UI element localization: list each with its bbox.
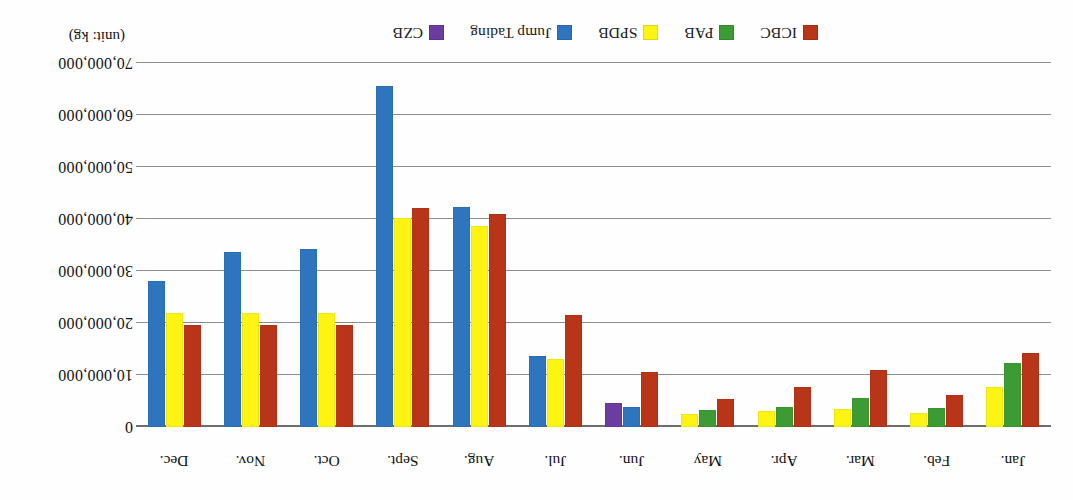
- bar-group: [670, 60, 746, 438]
- x-axis-tick-label: Jul.: [544, 452, 566, 470]
- bar-spdb[interactable]: [166, 313, 183, 427]
- y-axis-tick-label: 50,000,000: [8, 158, 133, 176]
- y-axis-tick-label: 60,000,000: [8, 106, 133, 124]
- x-axis-tick-label: Apr.: [771, 452, 798, 470]
- bar-group: [975, 60, 1051, 438]
- legend-item-jump-tading[interactable]: Jump Tading: [470, 24, 572, 42]
- legend-item-czb[interactable]: CZB: [393, 24, 444, 42]
- legend-swatch-icon: [803, 26, 818, 41]
- bar-spdb[interactable]: [834, 409, 851, 427]
- legend-swatch-icon: [429, 26, 444, 41]
- y-axis-tick-label: 70,000,000: [8, 54, 133, 72]
- legend-item-pab[interactable]: PAB: [684, 24, 734, 42]
- bar-jump-tading[interactable]: [529, 356, 546, 427]
- x-axis-tick-label: Dec.: [160, 452, 189, 470]
- bar-group: [822, 60, 898, 438]
- legend-label: SPDB: [598, 24, 637, 42]
- bar-group: [899, 60, 975, 438]
- x-axis-tick-label: Aug.: [464, 452, 495, 470]
- bar-chart: ICBCPABSPDBJump TadingCZB 010,000,00020,…: [0, 0, 1073, 500]
- bar-jump-tading[interactable]: [376, 86, 393, 427]
- bar-group: [212, 60, 288, 438]
- bar-spdb[interactable]: [681, 414, 698, 427]
- bar-group: [365, 60, 441, 438]
- legend-item-spdb[interactable]: SPDB: [598, 24, 658, 42]
- x-axis: Jan.Feb.Mar.Apr.MayJun.Jul.Aug.Sept.Oct.…: [136, 442, 1051, 470]
- bar-jump-tading[interactable]: [453, 207, 470, 427]
- bar-jump-tading[interactable]: [148, 281, 165, 427]
- bar-group: [517, 60, 593, 438]
- legend-swatch-icon: [643, 26, 658, 41]
- x-axis-tick-label: Oct.: [313, 452, 339, 470]
- bar-pab[interactable]: [852, 398, 869, 427]
- bar-jump-tading[interactable]: [224, 252, 241, 427]
- x-axis-tick-label: Nov.: [236, 452, 266, 470]
- bar-spdb[interactable]: [394, 218, 411, 427]
- rotated-figure: ICBCPABSPDBJump TadingCZB 010,000,00020,…: [0, 0, 1073, 500]
- legend-swatch-icon: [719, 26, 734, 41]
- x-axis-tick-label: Jan.: [1001, 452, 1026, 470]
- legend-label: Jump Tading: [470, 24, 551, 42]
- bar-icbc[interactable]: [412, 208, 429, 427]
- bar-group: [594, 60, 670, 438]
- legend-item-icbc[interactable]: ICBC: [760, 24, 818, 42]
- bar-pab[interactable]: [1004, 363, 1021, 427]
- legend-label: ICBC: [760, 24, 797, 42]
- bar-spdb[interactable]: [758, 411, 775, 427]
- y-axis-tick-label: 0: [8, 418, 133, 436]
- y-axis: 010,000,00020,000,00030,000,00040,000,00…: [3, 38, 133, 438]
- bar-icbc[interactable]: [336, 325, 353, 427]
- bar-pab[interactable]: [928, 408, 945, 427]
- legend-label: CZB: [393, 24, 423, 42]
- bar-icbc[interactable]: [870, 370, 887, 427]
- legend-label: PAB: [684, 24, 713, 42]
- bar-group: [136, 60, 212, 438]
- bar-pab[interactable]: [699, 410, 716, 427]
- bar-icbc[interactable]: [641, 372, 658, 427]
- y-axis-tick-label: 10,000,000: [8, 366, 133, 384]
- bar-icbc[interactable]: [565, 315, 582, 427]
- bar-spdb[interactable]: [318, 313, 335, 427]
- bar-jump-tading[interactable]: [623, 407, 640, 427]
- x-axis-tick-label: May: [694, 452, 722, 470]
- bar-pab[interactable]: [776, 407, 793, 427]
- x-axis-tick-label: Feb.: [923, 452, 950, 470]
- bar-icbc[interactable]: [260, 325, 277, 427]
- bar-czb[interactable]: [605, 403, 622, 427]
- bar-spdb[interactable]: [242, 313, 259, 427]
- x-axis-tick-label: Sept.: [387, 452, 418, 470]
- x-axis-tick-label: Jun.: [619, 452, 644, 470]
- bar-spdb[interactable]: [547, 359, 564, 427]
- bar-icbc[interactable]: [946, 395, 963, 427]
- y-axis-tick-label: 40,000,000: [8, 210, 133, 228]
- chart-legend: ICBCPABSPDBJump TadingCZB: [298, 18, 818, 48]
- x-axis-tick-label: Mar.: [846, 452, 875, 470]
- bar-group: [441, 60, 517, 438]
- bar-icbc[interactable]: [717, 399, 734, 427]
- legend-swatch-icon: [557, 26, 572, 41]
- bar-group: [289, 60, 365, 438]
- y-axis-tick-label: 20,000,000: [8, 314, 133, 332]
- plot-area: [136, 60, 1051, 438]
- bar-icbc[interactable]: [489, 214, 506, 427]
- bar-spdb[interactable]: [910, 413, 927, 427]
- bar-spdb[interactable]: [471, 226, 488, 427]
- bar-icbc[interactable]: [794, 387, 811, 427]
- y-axis-tick-label: 30,000,000: [8, 262, 133, 280]
- bar-spdb[interactable]: [986, 387, 1003, 427]
- bar-group: [746, 60, 822, 438]
- bar-jump-tading[interactable]: [300, 249, 317, 427]
- unit-label: (unit: kg): [69, 28, 125, 45]
- bar-icbc[interactable]: [1022, 353, 1039, 427]
- bar-icbc[interactable]: [184, 325, 201, 427]
